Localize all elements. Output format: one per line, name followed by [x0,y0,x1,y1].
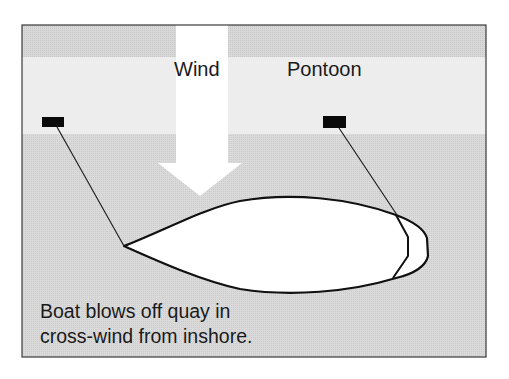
left-bollard [42,117,64,127]
shore-band [22,25,486,57]
diagram: Wind Pontoon Boat blows off quay in cros… [0,0,509,379]
right-bollard [323,116,346,128]
caption-line-1: Boat blows off quay in [40,299,252,324]
pontoon-label: Pontoon [287,58,362,81]
caption-line-2: cross-wind from inshore. [40,324,252,349]
wind-label: Wind [174,58,220,81]
pontoon-band [22,57,486,134]
caption: Boat blows off quay in cross-wind from i… [40,299,252,349]
